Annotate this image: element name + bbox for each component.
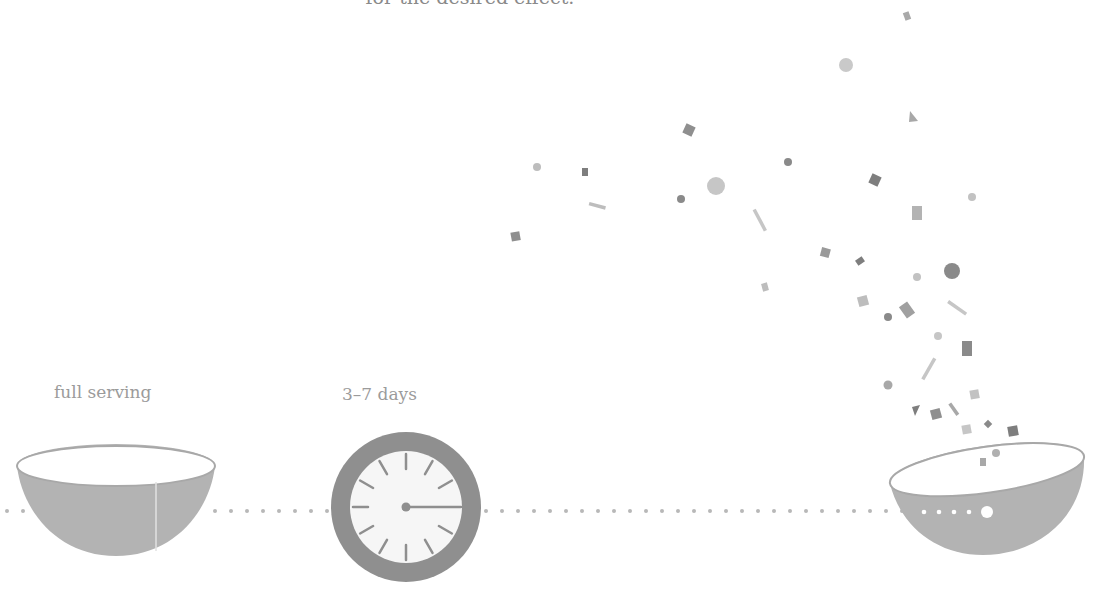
full-bowl-icon bbox=[17, 444, 215, 556]
timeline-diagram bbox=[0, 0, 1103, 592]
clock-icon bbox=[331, 432, 481, 582]
bowl-with-confetti-icon bbox=[887, 432, 1096, 567]
confetti-decoration bbox=[510, 11, 1018, 437]
